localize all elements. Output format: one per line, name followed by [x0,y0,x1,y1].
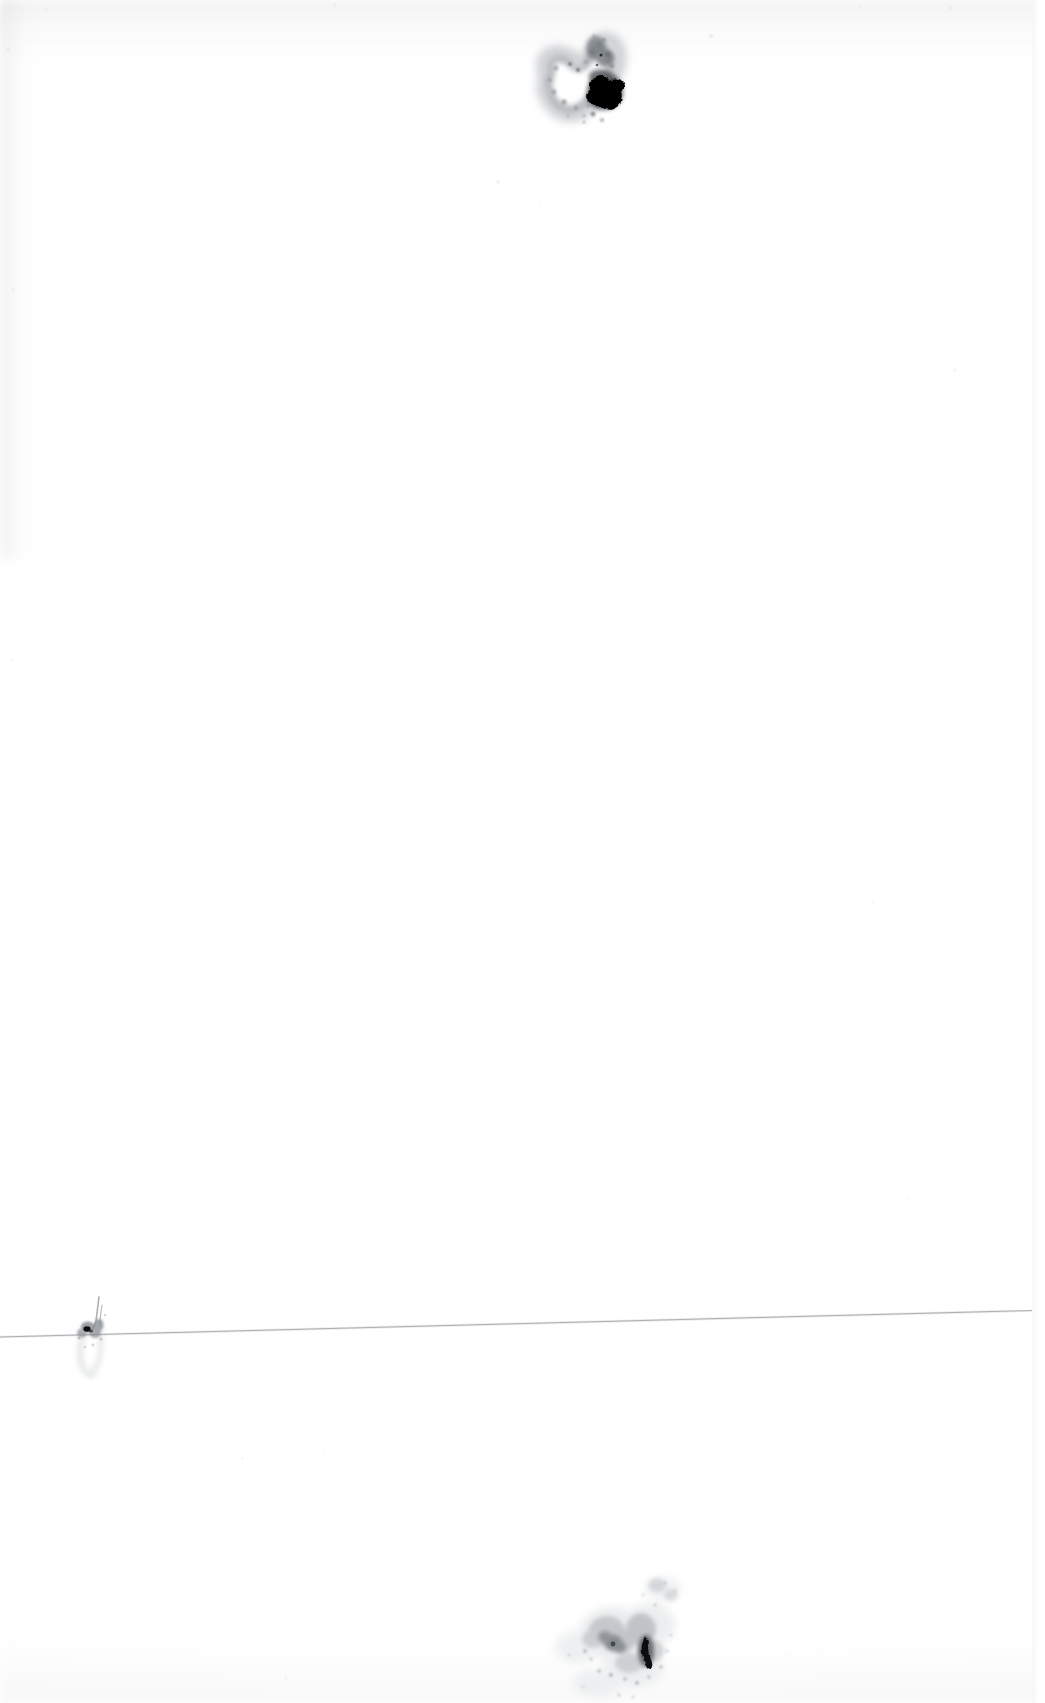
paper-background [0,0,1045,1703]
scanned-page [0,0,1045,1703]
